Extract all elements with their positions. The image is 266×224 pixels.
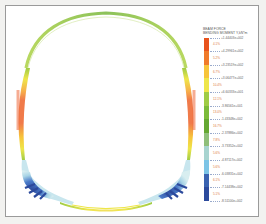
legend-percentage: 5.6% [213,165,220,169]
legend-percentage: 10.4% [213,83,222,87]
legend-tick [210,133,220,134]
legend-tick [210,146,220,147]
legend-value: -3.86561e+001 [221,104,243,108]
legend-value: +6.60333e+001 [221,90,243,94]
legend-percentage: 6.1% [213,178,220,182]
legend-percentage: 6.7% [213,70,220,74]
crown-arch [26,13,186,68]
legend-value: +1.44403e+002 [221,36,243,40]
legend-value: -6.03831e+002 [221,172,243,176]
legend-swatch [204,106,209,120]
legend-swatch [204,187,209,201]
legend-tick [210,201,220,202]
legend-value: -1.43348e+002 [221,117,243,121]
legend-swatch [204,133,209,147]
legend-percentage: 16.7% [213,124,222,128]
legend-tick [210,38,220,39]
legend-swatch [204,38,209,52]
legend-tick [210,106,220,107]
legend-tick [210,65,220,66]
color-legend: BEAM FORCE BENDING MOMENT Y,kN*m 4.1%5.2… [203,28,255,203]
legend-swatch [204,119,209,133]
legend-tick [210,160,220,161]
legend-swatch [204,78,209,92]
legend-swatch [204,174,209,188]
legend-value: -2.37886e+002 [221,131,243,135]
legend-value: -7.14438e+002 [221,185,243,189]
left-wall-moment [19,68,30,160]
legend-swatch [204,160,209,174]
legend-tick [210,92,220,93]
legend-scale: 4.1%5.2%6.7%10.4%12.1%13.0%16.7%7.8%5.6%… [203,38,255,203]
legend-swatch [204,92,209,106]
legend-tick [210,78,220,79]
legend-percentage: 12.1% [213,97,222,101]
legend-percentage: 7.8% [213,138,220,142]
legend-swatch [204,65,209,79]
legend-tick [210,51,220,52]
legend-tick [210,174,220,175]
legend-swatch [204,51,209,65]
legend-value: +3.23519e+002 [221,63,243,67]
invert-moment [60,202,152,212]
legend-value: -3.73352e+002 [221,144,243,148]
legend-value: +4.29961e+002 [221,49,243,53]
legend-percentage: 5.1% [213,192,220,196]
legend-swatch [204,146,209,160]
right-wall-moment [182,68,193,160]
legend-percentage: 5.2% [213,56,220,60]
legend-percentage: 5.6% [213,151,220,155]
legend-value: -8.51100e+002 [221,199,242,203]
legend-percentage: 4.1% [213,42,220,46]
legend-tick [210,187,220,188]
legend-tick [210,119,220,120]
legend-value: +3.06477e+002 [221,76,243,80]
legend-percentage: 13.0% [213,110,222,114]
legend-value: -4.87117e+002 [221,158,242,162]
